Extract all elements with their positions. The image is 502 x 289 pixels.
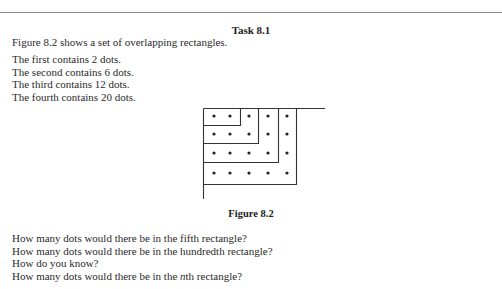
dot [285,114,288,117]
question-1: How many dots would there be in the fift… [12,232,247,245]
dot [212,151,215,154]
dot [212,114,215,117]
dot [247,132,250,135]
dot [266,151,269,154]
dot [247,114,250,117]
figure-caption: Figure 8.2 [0,208,502,219]
dot [228,171,231,174]
dot [228,114,231,117]
question-4-text: How many dots would there be in the nth … [12,270,242,282]
dot [247,151,250,154]
dot [285,171,288,174]
question-4: How many dots would there be in the nth … [12,270,242,283]
dot [266,171,269,174]
dot [266,132,269,135]
question-2: How many dots would there be in the hund… [12,245,273,258]
dot [212,132,215,135]
dot [285,132,288,135]
dot [285,151,288,154]
dot [228,151,231,154]
question-3: How do you know? [12,257,98,270]
dot [212,171,215,174]
dot [228,132,231,135]
dot [247,171,250,174]
dot [266,114,269,117]
